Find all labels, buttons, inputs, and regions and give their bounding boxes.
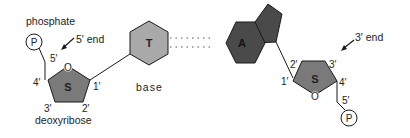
c1-label-left: 1′ (93, 81, 101, 92)
right-nucleotide: A O S 2′ 3′ 1′ 4′ 5′ 3′ end P (226, 4, 383, 126)
adenine-base: A (226, 4, 282, 63)
c3-label-left: 3′ (44, 103, 52, 114)
c4-label-right: 4′ (339, 77, 347, 88)
c5-bond-left (39, 48, 45, 80)
c4-label-left: 4′ (33, 77, 41, 88)
phosphate-group-left: P (26, 34, 42, 50)
three-prime-end-label: 3′ end (355, 31, 383, 43)
phosphate-group-right: P (341, 110, 357, 126)
c5-label-right: 5′ (342, 95, 350, 106)
base-label: base (136, 81, 163, 93)
adenine-symbol: A (238, 37, 246, 49)
c2-label-right: 2′ (290, 59, 298, 70)
five-prime-end-arrow (61, 38, 74, 50)
thymine-base: T (130, 21, 168, 65)
sugar-symbol-right: S (311, 73, 318, 85)
deoxyribose-label: deoxyribose (35, 114, 92, 126)
phosphate-symbol-right: P (346, 113, 353, 124)
left-nucleotide: phosphate P 5′ end 5′ O S 4′ 1′ 3′ 2′ (26, 15, 168, 126)
c3-label-right: 3′ (329, 59, 337, 70)
phosphate-label: phosphate (26, 15, 75, 27)
c5-label-left: 5′ (50, 53, 58, 64)
ring-oxygen-right: O (311, 91, 319, 102)
sugar-symbol-left: S (64, 81, 71, 93)
phosphate-symbol-left: P (31, 37, 38, 48)
deoxyribose-sugar-left: O S (48, 62, 90, 102)
three-prime-end-arrow (341, 40, 354, 51)
nucleotide-pair-diagram: phosphate P 5′ end 5′ O S 4′ 1′ 3′ 2′ (0, 0, 410, 138)
c1-label-right: 1′ (281, 76, 289, 87)
ring-oxygen-left: O (64, 62, 72, 73)
c2-label-left: 2′ (82, 103, 90, 114)
glycosidic-bond-left (90, 54, 130, 80)
hydrogen-bonds (170, 38, 214, 47)
five-prime-end-label: 5′ end (76, 33, 104, 45)
thymine-symbol: T (146, 37, 153, 49)
